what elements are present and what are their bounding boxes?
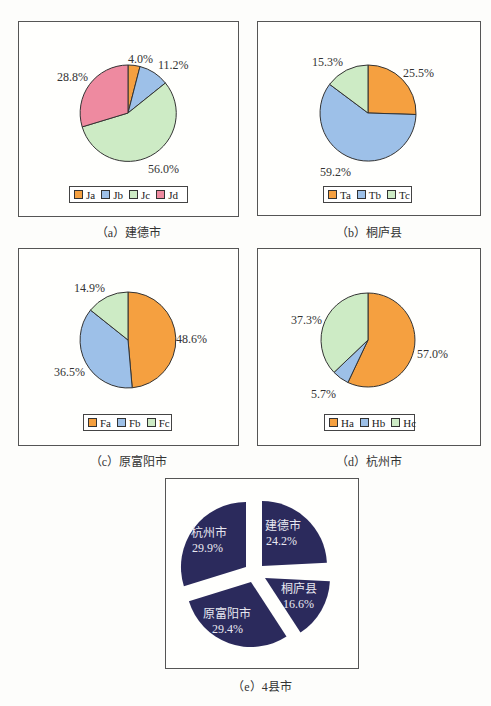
- legend-item-ja: Ja: [74, 189, 95, 201]
- pie-d: [321, 293, 415, 387]
- pie-charts-canvas: 4.0% 11.2% 56.0% 28.8% 25.5% 59.2% 15.3%…: [0, 0, 491, 706]
- legend-item-hc: Hc: [391, 417, 416, 429]
- legend-label: Tc: [399, 189, 410, 201]
- pie-c: [80, 292, 176, 388]
- legend-item-tc: Tc: [387, 189, 410, 201]
- label-ha: 57.0%: [417, 347, 448, 361]
- legend-label: Fb: [129, 417, 141, 429]
- swatch-icon: [391, 418, 400, 427]
- caption-b: （b）桐庐县: [257, 223, 481, 241]
- label-tonglu-name: 桐庐县: [281, 581, 317, 596]
- label-fuyang-value: 29.4%: [212, 622, 243, 636]
- label-fuyang-name: 原富阳市: [203, 606, 251, 621]
- pie-e: [181, 501, 330, 647]
- swatch-icon: [328, 190, 337, 199]
- label-jd: 28.8%: [57, 70, 88, 84]
- label-hangzhou-value: 29.9%: [192, 541, 223, 555]
- swatch-icon: [387, 190, 396, 199]
- swatch-icon: [74, 190, 83, 199]
- label-jiande-value: 24.2%: [266, 534, 297, 548]
- label-hb: 5.7%: [311, 387, 336, 401]
- label-fc: 14.9%: [74, 281, 105, 295]
- swatch-icon: [129, 190, 138, 199]
- legend-label: Ja: [86, 189, 95, 201]
- label-jc: 56.0%: [148, 162, 179, 176]
- legend-label: Jc: [141, 189, 150, 201]
- legend-c: Fa Fb Fc: [83, 414, 172, 431]
- caption-c: （c）原富阳市: [18, 452, 239, 470]
- legend-item-jc: Jc: [129, 189, 150, 201]
- legend-label: Hc: [403, 417, 416, 429]
- legend-item-fc: Fc: [147, 417, 170, 429]
- swatch-icon: [88, 418, 97, 427]
- label-jb: 11.2%: [158, 58, 189, 72]
- legend-label: Fa: [100, 417, 111, 429]
- label-tonglu-value: 16.6%: [283, 597, 314, 611]
- legend-label: Jb: [113, 189, 123, 201]
- swatch-icon: [360, 418, 369, 427]
- legend-label: Tb: [369, 189, 381, 201]
- label-ja: 4.0%: [128, 52, 153, 66]
- label-hangzhou-name: 杭州市: [191, 525, 227, 540]
- legend-a: Ja Jb Jc Jd: [69, 186, 188, 203]
- swatch-icon: [357, 190, 366, 199]
- label-hc: 37.3%: [291, 313, 322, 327]
- swatch-icon: [147, 418, 156, 427]
- pie-b: [320, 65, 416, 161]
- legend-label: Fc: [159, 417, 170, 429]
- swatch-icon: [329, 418, 338, 427]
- label-ta: 25.5%: [403, 66, 434, 80]
- caption-e: （e）4县市: [165, 677, 359, 695]
- label-fb: 36.5%: [54, 365, 85, 379]
- legend-item-ta: Ta: [328, 189, 351, 201]
- legend-item-ha: Ha: [329, 417, 354, 429]
- legend-item-fa: Fa: [88, 417, 111, 429]
- caption-d: （d）杭州市: [257, 452, 481, 470]
- legend-label: Ta: [340, 189, 351, 201]
- legend-item-jb: Jb: [101, 189, 123, 201]
- pie-a: [80, 65, 176, 161]
- legend-label: Hb: [372, 417, 385, 429]
- legend-item-hb: Hb: [360, 417, 385, 429]
- label-fa: 48.6%: [176, 332, 207, 346]
- legend-label: Ha: [341, 417, 354, 429]
- legend-item-jd: Jd: [156, 189, 178, 201]
- swatch-icon: [156, 190, 165, 199]
- legend-label: Jd: [168, 189, 178, 201]
- swatch-icon: [117, 418, 126, 427]
- caption-a: （a）建德市: [18, 223, 239, 241]
- swatch-icon: [101, 190, 110, 199]
- label-tc: 15.3%: [312, 55, 343, 69]
- legend-item-fb: Fb: [117, 417, 141, 429]
- legend-b: Ta Tb Tc: [323, 186, 412, 203]
- legend-d: Ha Hb Hc: [324, 414, 415, 431]
- slice-fa: [128, 292, 176, 388]
- legend-item-tb: Tb: [357, 189, 381, 201]
- label-tb: 59.2%: [320, 165, 351, 179]
- label-jiande-name: 建德市: [265, 518, 301, 533]
